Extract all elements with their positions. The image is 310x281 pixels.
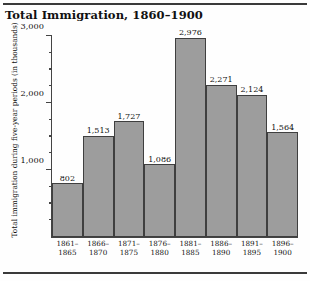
x-axis-tick-label-line: 1875 (114, 249, 145, 258)
x-axis-tick-label: 1886–1890 (206, 240, 237, 257)
bar: 2,271 (206, 85, 237, 237)
bar-value-label: 1,727 (115, 112, 144, 121)
bar-series: 8021,5131,7271,0862,9762,2712,1241,564 (52, 36, 298, 237)
bar-value-label: 2,271 (207, 75, 236, 84)
bar-value-label: 2,124 (238, 85, 267, 94)
y-axis-label: Total immigration during five-year perio… (10, 48, 19, 238)
y-axis-tick-label: 2,000 (21, 88, 44, 98)
x-axis-tick-label: 1871–1875 (114, 240, 145, 257)
chart-figure: Total Immigration, 1860–1900 Total immig… (0, 0, 310, 281)
bar-cell: 1,564 (267, 36, 298, 237)
x-axis-tick-label: 1876–1880 (144, 240, 175, 257)
bar-value-label: 802 (53, 174, 82, 183)
bar: 1,086 (144, 164, 175, 237)
bar: 1,727 (114, 121, 145, 237)
x-axis-tick-label-line: 1880 (144, 249, 175, 258)
bar-value-label: 1,564 (268, 123, 297, 132)
bar-cell: 1,727 (114, 36, 145, 237)
x-axis-tick-label: 1861–1865 (52, 240, 83, 257)
x-axis-tick-label-line: 1885 (175, 249, 206, 258)
bar-cell: 2,271 (206, 36, 237, 237)
bar-value-label: 1,513 (84, 126, 113, 135)
bar: 802 (52, 183, 83, 237)
bar-cell: 2,976 (175, 36, 206, 237)
bar: 2,976 (175, 38, 206, 237)
x-axis-tick-label-line: 1870 (83, 249, 114, 258)
x-axis-tick-label-line: 1890 (206, 249, 237, 258)
plot-area: 1,0002,0003,000 8021,5131,7271,0862,9762… (52, 36, 298, 237)
x-axis-tick-label: 1866–1870 (83, 240, 114, 257)
x-axis-tick-label: 1881–1885 (175, 240, 206, 257)
bar: 1,513 (83, 136, 114, 237)
bar-cell: 2,124 (237, 36, 268, 237)
bottom-divider-rule (3, 272, 307, 274)
bar-value-label: 1,086 (145, 155, 174, 164)
x-axis-tick-labels: 1861–18651866–18701871–18751876–18801881… (52, 240, 298, 257)
bar: 1,564 (267, 132, 298, 237)
top-divider-rule (3, 3, 307, 5)
bar-cell: 1,086 (144, 36, 175, 237)
x-axis-tick-label: 1891–1895 (237, 240, 268, 257)
y-axis-tick-label: 3,000 (21, 21, 44, 31)
bar: 2,124 (237, 95, 268, 237)
x-axis-tick-label-line: 1895 (237, 249, 268, 258)
y-axis-tick-label: 1,000 (21, 155, 44, 165)
x-axis-tick-label-line: 1865 (52, 249, 83, 258)
x-axis-tick-label: 1896–1900 (267, 240, 298, 257)
chart-title: Total Immigration, 1860–1900 (5, 8, 203, 22)
bar-value-label: 2,976 (176, 28, 205, 37)
bar-cell: 802 (52, 36, 83, 237)
bar-cell: 1,513 (83, 36, 114, 237)
x-axis-tick-label-line: 1900 (267, 249, 298, 258)
